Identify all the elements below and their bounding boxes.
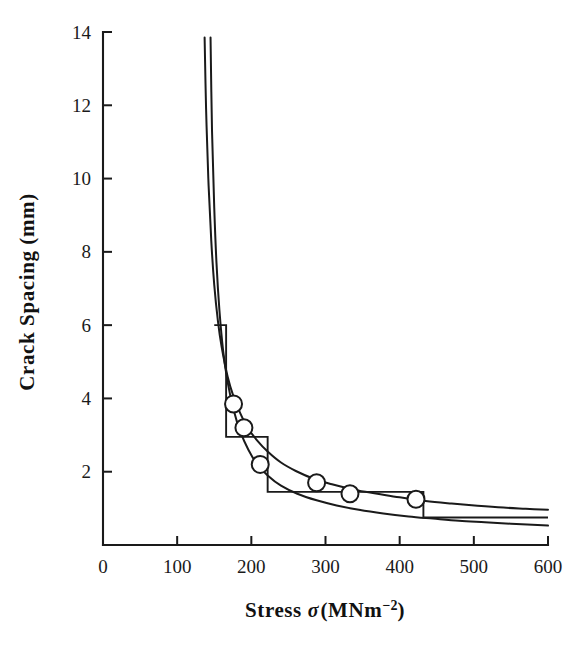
x-axis-title: Stress σ(MNm−2) — [245, 598, 405, 622]
x-tick-label-400: 400 — [385, 556, 414, 577]
y-tick-label-4: 4 — [82, 388, 92, 409]
x-tick-label-100: 100 — [163, 556, 192, 577]
data-point-6 — [407, 491, 424, 508]
y-tick-label-10: 10 — [72, 168, 91, 189]
data-point-4 — [308, 474, 325, 491]
x-axis-title-close: ) — [397, 598, 405, 622]
x-axis-title-open: (MNm — [321, 598, 383, 622]
x-axis-title-sigma: σ — [308, 599, 320, 621]
x-axis-title-superscript: −2 — [382, 598, 397, 613]
data-point-5 — [341, 485, 358, 502]
y-tick-label-8: 8 — [82, 241, 92, 262]
data-point-1 — [225, 395, 242, 412]
x-tick-label-600: 600 — [534, 556, 563, 577]
x-tick-label-0: 0 — [98, 556, 108, 577]
crack-spacing-vs-stress-chart: 2468101214 0100200300400500600 Crack Spa… — [0, 0, 583, 646]
y-tick-label-2: 2 — [82, 461, 92, 482]
y-axis-title-text: Crack Spacing (mm) — [15, 193, 39, 390]
x-tick-label-500: 500 — [460, 556, 489, 577]
x-tick-label-200: 200 — [237, 556, 266, 577]
data-point-2 — [235, 419, 252, 436]
x-tick-label-300: 300 — [311, 556, 340, 577]
y-tick-label-12: 12 — [72, 95, 91, 116]
y-axis-title: Crack Spacing (mm) — [15, 193, 39, 390]
data-point-3 — [252, 456, 269, 473]
y-tick-label-14: 14 — [72, 22, 92, 43]
x-axis-title-lead: Stress — [245, 598, 308, 622]
x-axis-title-text: Stress σ(MNm−2) — [245, 598, 405, 622]
y-tick-label-6: 6 — [82, 315, 92, 336]
